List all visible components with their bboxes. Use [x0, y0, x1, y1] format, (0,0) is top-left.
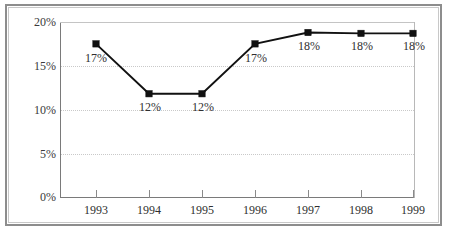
data-point-1996 — [252, 41, 258, 47]
point-label-1999: 18% — [403, 40, 425, 52]
point-label-1994: 12% — [139, 101, 161, 113]
point-label-1996: 17% — [245, 52, 267, 64]
point-label-1995: 12% — [192, 101, 214, 113]
data-point-1995 — [199, 91, 205, 97]
series-plot — [0, 0, 453, 236]
chart-figure: 20% 15% 10% 5% 0% 1993 1994 1995 1996 19… — [0, 0, 453, 236]
data-point-1994 — [146, 91, 152, 97]
point-label-1997: 18% — [298, 40, 320, 52]
data-point-1998 — [358, 30, 364, 36]
point-label-1993: 17% — [85, 52, 107, 64]
data-point-1997 — [305, 29, 311, 35]
data-point-1999 — [410, 30, 416, 36]
point-label-1998: 18% — [351, 40, 373, 52]
data-point-1993 — [93, 41, 99, 47]
